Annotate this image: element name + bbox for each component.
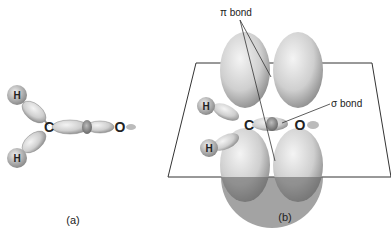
atom-label-h2: H (13, 153, 20, 164)
atom-label-c: C (244, 117, 254, 133)
atom-label-o: O (115, 119, 126, 135)
panel-b-label: (b) (278, 211, 291, 223)
panel-b: H H C O π bond σ bond (b) (168, 7, 391, 228)
panel-a-label: (a) (66, 214, 79, 226)
sigma-bond-label: σ bond (331, 98, 362, 109)
formaldehyde-orbital-diagram: H H C O (a) H H C O π bond σ bond (b) (0, 0, 391, 232)
atom-label-h1: H (13, 90, 20, 101)
atom-label-h2: H (205, 143, 212, 154)
atom-label-o: O (295, 117, 306, 133)
p-orbital-c-top (220, 32, 270, 108)
panel-a: H H C O (a) (7, 85, 136, 226)
pi-bond-label: π bond (220, 7, 252, 18)
atom-label-c: C (44, 119, 54, 135)
p-orbital-o-top (273, 32, 323, 108)
atom-label-h1: H (202, 101, 209, 112)
